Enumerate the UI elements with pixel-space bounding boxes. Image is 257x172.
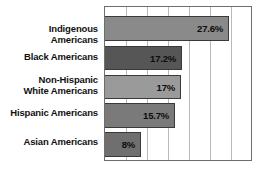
bar-value-black-americans: 17.2% [150, 53, 181, 64]
category-label-non-hispanic-white-americans: Non-Hispanic White Americans [24, 74, 98, 96]
category-label-asian-americans: Asian Americans [24, 136, 99, 147]
bar-hispanic-americans: 15.7% [104, 103, 175, 128]
bar-indigenous-americans: 27.6% [104, 16, 229, 41]
category-label-black-americans: Black Americans [24, 51, 98, 62]
gridline-6 [231, 7, 232, 160]
bar-black-americans: 17.2% [104, 46, 182, 70]
category-label-hispanic-americans: Hispanic Americans [10, 107, 98, 118]
bar-value-non-hispanic-white-americans: 17% [157, 82, 180, 93]
bar-value-indigenous-americans: 27.6% [197, 23, 228, 34]
bar-chart: Indigenous Americans Black Americans Non… [0, 0, 257, 172]
category-label-indigenous-americans: Indigenous Americans [0, 23, 98, 45]
bar-non-hispanic-white-americans: 17% [104, 75, 181, 99]
bar-asian-americans: 8% [104, 132, 141, 157]
bar-value-hispanic-americans: 15.7% [143, 110, 174, 121]
category-label-column: Indigenous Americans Black Americans Non… [0, 6, 101, 161]
bar-value-asian-americans: 8% [122, 139, 140, 150]
plot-area: 27.6% 17.2% 17% 15.7% 8% [104, 6, 252, 161]
